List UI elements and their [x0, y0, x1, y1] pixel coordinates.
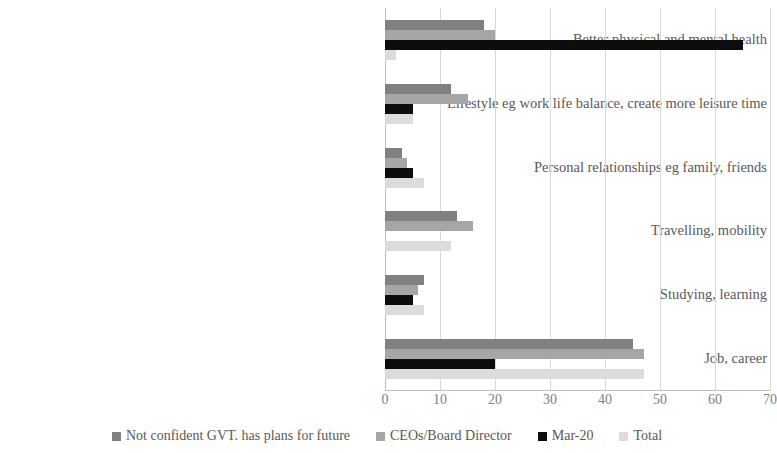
- bar: [385, 94, 468, 104]
- bar-group: [385, 84, 770, 124]
- legend-swatch-icon: [112, 432, 121, 441]
- bar: [385, 221, 473, 231]
- legend-label: Mar-20: [552, 428, 594, 444]
- legend-label: CEOs/Board Director: [390, 428, 512, 444]
- bar: [385, 349, 644, 359]
- tick-label-70: 70: [763, 392, 777, 408]
- bar: [385, 148, 402, 158]
- gridline-10: [440, 8, 441, 391]
- bar: [385, 20, 484, 30]
- gridline-70: [770, 8, 771, 391]
- legend-swatch-icon: [619, 432, 628, 441]
- bar: [385, 211, 457, 221]
- legend-label: Total: [633, 428, 662, 444]
- gridline-40: [605, 8, 606, 391]
- bar: [385, 295, 413, 305]
- bar: [385, 50, 396, 60]
- bar: [385, 158, 407, 168]
- bar-group: [385, 20, 770, 60]
- chart-legend: Not confident GVT. has plans for futureC…: [0, 424, 774, 448]
- value-axis-line: [385, 8, 386, 391]
- tick-label-0: 0: [382, 392, 389, 408]
- tick-label-10: 10: [433, 392, 447, 408]
- bar: [385, 241, 451, 251]
- bar: [385, 369, 644, 379]
- bar: [385, 114, 413, 124]
- legend-item[interactable]: CEOs/Board Director: [376, 428, 512, 444]
- legend-swatch-icon: [376, 432, 385, 441]
- bar: [385, 339, 633, 349]
- bar-group: [385, 148, 770, 188]
- bar-group: [385, 275, 770, 315]
- bar: [385, 84, 451, 94]
- gridline-30: [550, 8, 551, 391]
- tick-label-20: 20: [488, 392, 502, 408]
- bar: [385, 30, 495, 40]
- category-axis-line: [385, 390, 770, 391]
- legend-item[interactable]: Mar-20: [538, 428, 594, 444]
- bar: [385, 359, 495, 369]
- gridline-60: [715, 8, 716, 391]
- gridline-20: [495, 8, 496, 391]
- plot-area: [385, 8, 770, 391]
- gridline-50: [660, 8, 661, 391]
- legend-item[interactable]: Not confident GVT. has plans for future: [112, 428, 350, 444]
- legend-swatch-icon: [538, 432, 547, 441]
- legend-label: Not confident GVT. has plans for future: [126, 428, 350, 444]
- bar: [385, 178, 424, 188]
- bar: [385, 40, 743, 50]
- bar-group: [385, 339, 770, 379]
- bar: [385, 275, 424, 285]
- bar: [385, 168, 413, 178]
- legend-item[interactable]: Total: [619, 428, 662, 444]
- tick-label-50: 50: [653, 392, 667, 408]
- tick-label-60: 60: [708, 392, 722, 408]
- bar: [385, 104, 413, 114]
- tick-label-40: 40: [598, 392, 612, 408]
- tick-label-30: 30: [543, 392, 557, 408]
- bar-group: [385, 211, 770, 251]
- bar: [385, 285, 418, 295]
- bar: [385, 305, 424, 315]
